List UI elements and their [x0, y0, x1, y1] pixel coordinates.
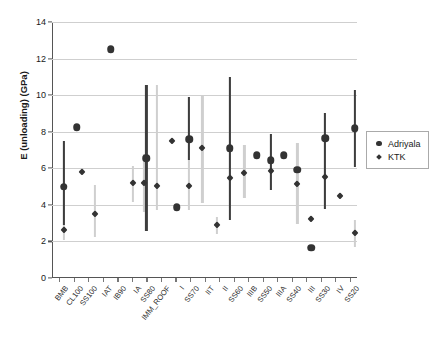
x-tick-mark	[132, 278, 133, 282]
x-tick-label: SS60	[226, 284, 245, 304]
data-point-adriyala	[253, 151, 261, 159]
x-tick-mark	[263, 278, 264, 282]
x-tick-mark	[161, 278, 162, 282]
data-point-adriyala	[143, 154, 151, 162]
data-point-ktk	[321, 174, 328, 181]
x-tick-label: IIT	[203, 284, 216, 297]
x-tick-label: III	[306, 284, 317, 295]
error-bar	[155, 85, 157, 210]
x-tick-label: SS70	[183, 284, 202, 304]
gridline	[52, 205, 357, 206]
x-tick-label: SS20	[342, 284, 361, 304]
y-axis-title: E (unloading) (GPa)	[18, 31, 29, 201]
gridline	[52, 22, 357, 23]
data-point-adriyala	[226, 144, 234, 152]
data-point-ktk	[186, 182, 193, 189]
gridline	[52, 95, 357, 96]
data-point-adriyala	[267, 156, 275, 164]
y-tick-mark	[48, 95, 52, 96]
data-point-ktk	[337, 192, 344, 199]
chart-legend: Adriyala KTK	[366, 131, 429, 169]
x-tick-mark	[277, 278, 278, 282]
data-point-ktk	[199, 144, 206, 151]
circle-marker-icon	[372, 141, 386, 147]
legend-item-ktk: KTK	[372, 150, 421, 163]
data-point-ktk	[129, 179, 136, 186]
x-tick-label: IV	[335, 284, 347, 295]
y-tick-mark	[48, 58, 52, 59]
x-tick-mark	[146, 278, 147, 282]
y-axis-line	[52, 22, 53, 278]
data-point-adriyala	[186, 135, 194, 143]
y-tick-mark	[48, 131, 52, 132]
x-tick-label: SS50	[255, 284, 274, 304]
x-tick-label: I	[178, 284, 186, 291]
gridline	[52, 241, 357, 242]
y-tick-mark	[48, 204, 52, 205]
x-tick-mark	[219, 278, 220, 282]
x-tick-mark	[103, 278, 104, 282]
data-point-adriyala	[107, 46, 115, 54]
x-tick-mark	[321, 278, 322, 282]
legend-label-adriyala: Adriyala	[386, 139, 421, 149]
y-tick-mark	[48, 277, 52, 278]
legend-item-adriyala: Adriyala	[372, 137, 421, 150]
x-tick-mark	[74, 278, 75, 282]
plot-area: 02468101214 BMBCL100SS100IATIB90IASS80IM…	[52, 22, 357, 278]
data-point-adriyala	[308, 244, 316, 252]
x-tick-mark	[335, 278, 336, 282]
data-point-ktk	[91, 211, 98, 218]
diamond-marker-icon	[372, 155, 386, 159]
y-tick-mark	[48, 21, 52, 22]
data-point-ktk	[226, 174, 233, 181]
x-tick-mark	[350, 278, 351, 282]
x-tick-label: IB90	[112, 284, 129, 302]
x-tick-mark	[175, 278, 176, 282]
gridline	[52, 132, 357, 133]
x-tick-mark	[117, 278, 118, 282]
x-tick-label: SS30	[313, 284, 332, 304]
data-point-adriyala	[73, 123, 81, 131]
x-tick-mark	[59, 278, 60, 282]
x-tick-mark	[234, 278, 235, 282]
data-point-adriyala	[173, 203, 181, 211]
error-bar	[324, 113, 326, 209]
data-point-adriyala	[60, 183, 68, 191]
x-tick-mark	[190, 278, 191, 282]
data-point-ktk	[60, 226, 67, 233]
gridline	[52, 59, 357, 60]
x-tick-mark	[292, 278, 293, 282]
data-point-ktk	[168, 138, 175, 145]
legend-label-ktk: KTK	[386, 152, 406, 162]
data-point-ktk	[351, 230, 358, 237]
data-point-ktk	[308, 215, 315, 222]
x-tick-mark	[205, 278, 206, 282]
y-tick-mark	[48, 168, 52, 169]
data-point-ktk	[294, 180, 301, 187]
data-point-adriyala	[351, 124, 359, 132]
data-point-adriyala	[321, 134, 329, 142]
x-tick-label: SS40	[284, 284, 303, 304]
x-tick-mark	[306, 278, 307, 282]
x-tick-mark	[88, 278, 89, 282]
error-bar	[188, 97, 190, 160]
data-point-ktk	[241, 169, 248, 176]
y-tick-mark	[48, 241, 52, 242]
data-point-adriyala	[280, 151, 288, 159]
data-point-ktk	[153, 182, 160, 189]
data-point-ktk	[213, 221, 220, 228]
x-tick-label: II	[220, 284, 230, 293]
x-tick-mark	[248, 278, 249, 282]
chart-root: E (unloading) (GPa) 02468101214 BMBCL100…	[0, 0, 439, 352]
data-point-adriyala	[294, 166, 302, 174]
gridline	[52, 168, 357, 169]
